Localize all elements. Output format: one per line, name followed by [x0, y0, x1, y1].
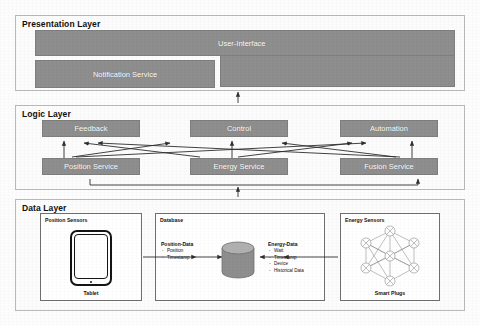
control-box[interactable]: Control: [190, 120, 288, 137]
feedback-box[interactable]: Feedback: [42, 120, 140, 137]
presentation-layer-title: Presentation Layer: [22, 19, 100, 29]
notification-service-box[interactable]: Notification Service: [35, 60, 215, 88]
fusion-service-box[interactable]: Fusion Service: [340, 158, 438, 175]
position-data-title: Position-Data: [161, 241, 193, 248]
energy-data-item: Historical Data: [268, 268, 304, 275]
logic-layer-container: [15, 105, 465, 190]
smart-plugs-caption: Smart Plugs: [355, 290, 425, 296]
diagram-canvas: Presentation Layer User-Interface Notifi…: [0, 0, 480, 325]
data-layer-title: Data Layer: [22, 203, 66, 213]
user-interface-box[interactable]: User-Interface: [35, 30, 455, 56]
tablet-caption: Tablet: [70, 290, 112, 296]
position-data-list: Position-Data Position Timestamp: [161, 241, 193, 261]
feedback-label: Feedback: [75, 124, 108, 133]
energy-sensors-label: Energy Sensors: [345, 217, 385, 223]
user-interface-label: User-Interface: [218, 39, 266, 48]
logic-layer-title: Logic Layer: [22, 109, 71, 119]
position-service-box[interactable]: Position Service: [42, 158, 140, 175]
energy-data-item: Timestamp: [268, 255, 304, 262]
position-sensors-label: Position Sensors: [45, 217, 87, 223]
energy-data-item: Watt: [268, 248, 304, 255]
energy-service-box[interactable]: Energy Service: [190, 158, 288, 175]
energy-data-item: Device: [268, 261, 304, 268]
user-interface-box-extension[interactable]: [220, 55, 455, 87]
energy-data-list: Energy-Data Watt Timestamp Device Histor…: [268, 241, 304, 274]
automation-label: Automation: [370, 124, 408, 133]
control-label: Control: [227, 124, 251, 133]
position-service-label: Position Service: [64, 162, 118, 171]
notification-service-label: Notification Service: [93, 70, 157, 79]
tablet-icon: [70, 230, 112, 286]
automation-box[interactable]: Automation: [340, 120, 438, 137]
position-data-item: Position: [161, 248, 193, 255]
energy-data-title: Energy-Data: [268, 241, 304, 248]
fusion-service-label: Fusion Service: [364, 162, 414, 171]
energy-sensors-group: [340, 213, 440, 301]
energy-service-label: Energy Service: [214, 162, 265, 171]
position-data-item: Timestamp: [161, 255, 193, 262]
database-label: Database: [160, 217, 183, 223]
